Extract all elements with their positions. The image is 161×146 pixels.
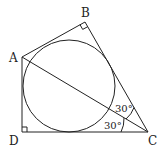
- label-c: C: [148, 134, 157, 146]
- segment-bc: [85, 22, 148, 132]
- geometry-diagram: A B C D 30° 30°: [0, 0, 161, 146]
- diagonal-ac: [22, 57, 148, 132]
- inscribed-circle: [23, 40, 115, 132]
- angle-label-acd: 30°: [104, 120, 122, 131]
- label-d: D: [9, 134, 19, 146]
- right-angle-mark-d: [22, 127, 27, 132]
- segment-ab: [22, 22, 85, 57]
- label-a: A: [8, 51, 18, 65]
- angle-label-bca: 30°: [115, 103, 133, 114]
- label-b: B: [81, 6, 90, 20]
